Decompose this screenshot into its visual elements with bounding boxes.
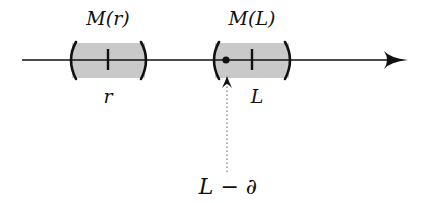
axis-arrowhead-icon [384, 51, 408, 69]
label-m-r: M(r) [86, 9, 129, 28]
label-r: r [103, 87, 112, 106]
label-m-l: M(L) [229, 9, 276, 28]
label-l-minus-partial: L − ∂ [199, 176, 257, 198]
label-l: L [251, 87, 264, 106]
number-line-diagram [0, 0, 427, 203]
marked-point [222, 56, 229, 63]
